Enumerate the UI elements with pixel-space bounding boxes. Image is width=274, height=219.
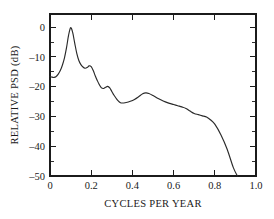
x-tick-label: 0 bbox=[47, 180, 52, 191]
y-axis-major-ticks-right bbox=[250, 27, 256, 146]
psd-chart-svg: 0 0.2 0.4 0.6 0.8 1.0 0 –10 –20 –30 –40 … bbox=[0, 0, 274, 219]
psd-data-curve bbox=[50, 28, 237, 176]
y-tick-label: –10 bbox=[28, 52, 45, 63]
y-axis-title: RELATIVE PSD (dB) bbox=[9, 45, 21, 144]
y-axis-minor-ticks-right bbox=[252, 42, 256, 161]
x-tick-label: 1.0 bbox=[249, 180, 262, 191]
y-tick-label: –40 bbox=[28, 141, 45, 152]
x-axis-major-ticks-top bbox=[91, 14, 215, 20]
y-tick-label: –50 bbox=[28, 171, 45, 182]
x-axis-tick-labels: 0 0.2 0.4 0.6 0.8 1.0 bbox=[47, 180, 262, 191]
y-tick-label: –20 bbox=[28, 81, 45, 92]
y-axis-tick-labels: 0 –10 –20 –30 –40 –50 bbox=[28, 22, 45, 182]
y-tick-label: 0 bbox=[40, 22, 45, 33]
x-axis-title: CYCLES PER YEAR bbox=[104, 198, 201, 209]
x-tick-label: 0.6 bbox=[167, 180, 180, 191]
y-axis-minor-ticks-left bbox=[50, 42, 54, 161]
psd-figure: 0 0.2 0.4 0.6 0.8 1.0 0 –10 –20 –30 –40 … bbox=[0, 0, 274, 219]
y-tick-label: –30 bbox=[28, 111, 45, 122]
x-tick-label: 0.8 bbox=[208, 180, 221, 191]
x-axis-major-ticks-bottom bbox=[50, 170, 256, 176]
x-tick-label: 0.2 bbox=[85, 180, 98, 191]
x-tick-label: 0.4 bbox=[126, 180, 140, 191]
